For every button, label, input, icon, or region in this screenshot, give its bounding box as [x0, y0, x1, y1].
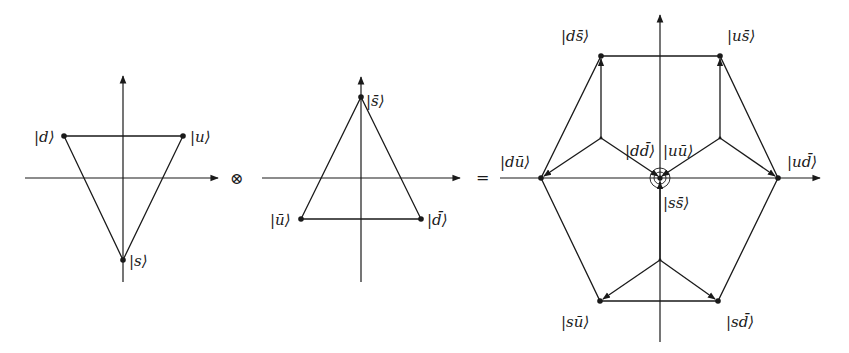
label-sd: |sd̄⟩ [726, 313, 754, 331]
arrow-u-to-ud [720, 138, 775, 176]
point-ud [775, 175, 781, 181]
point-d [61, 133, 67, 139]
label-dd: |dd̄⟩ [625, 142, 655, 160]
vertex-s [659, 259, 662, 262]
point-u [180, 133, 186, 139]
point-sd [715, 298, 721, 304]
point-dbar [418, 216, 424, 222]
label-us: |us̄⟩ [727, 27, 755, 45]
meson-nonet-figure: |d⟩ |u⟩ |s⟩ ⊗ |s̄⟩ |ū⟩ |d̄⟩ = [0, 0, 849, 353]
label-d: |d⟩ [34, 128, 55, 146]
label-su: |sū⟩ [561, 313, 589, 331]
arrow-s-to-su [603, 260, 660, 299]
point-su [597, 298, 603, 304]
tensor-product-symbol: ⊗ [230, 169, 243, 188]
label-ubar: |ū⟩ [270, 211, 291, 229]
label-dbar: |d̄⟩ [427, 211, 448, 229]
label-du: |dū⟩ [500, 153, 530, 171]
arrow-d-to-du [544, 138, 601, 176]
point-us [717, 53, 723, 59]
point-center [657, 175, 662, 180]
vertex-d [600, 137, 603, 140]
point-ubar [298, 216, 304, 222]
label-s: |s⟩ [129, 252, 148, 270]
point-ds [598, 53, 604, 59]
quark-triplet-diagram: |d⟩ |u⟩ |s⟩ [25, 76, 218, 282]
point-sbar [358, 94, 364, 100]
label-u: |u⟩ [190, 128, 211, 146]
arrow-s-to-sd [660, 260, 715, 299]
point-du [538, 175, 544, 181]
vertex-u [719, 137, 722, 140]
label-ss: |ss̄⟩ [663, 194, 689, 212]
meson-nonet-diagram: |ds̄⟩ |us̄⟩ |dū⟩ |ud̄⟩ |dd̄⟩ |uū⟩ |ss̄⟩ … [500, 15, 820, 342]
equals-symbol: = [476, 168, 489, 187]
label-uu: |uū⟩ [663, 142, 693, 160]
label-sbar: |s̄⟩ [366, 92, 385, 110]
label-ds: |ds̄⟩ [561, 27, 589, 45]
antiquark-antitriplet-diagram: |s̄⟩ |ū⟩ |d̄⟩ [262, 77, 460, 282]
point-s [120, 257, 126, 263]
label-ud: |ud̄⟩ [787, 153, 817, 171]
